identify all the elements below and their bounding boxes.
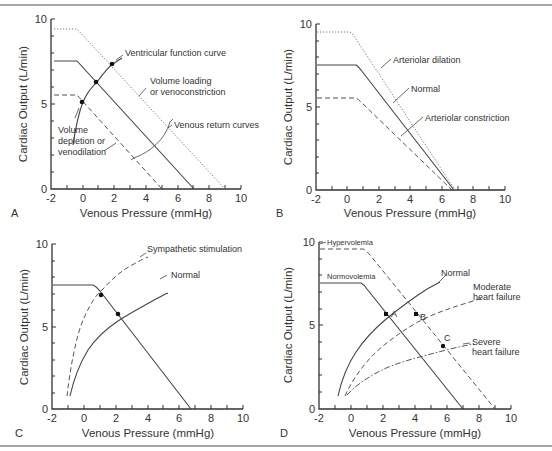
xtick: 4 xyxy=(412,412,418,424)
panel-b-axes xyxy=(316,24,505,190)
equilibrium-point-c xyxy=(441,344,445,348)
xtick: 10 xyxy=(235,192,247,204)
equilibrium-point-a xyxy=(384,312,388,316)
panel-d: 10 5 0 -2 0 2 4 6 8 10 Venous Pressure (… xyxy=(280,236,521,439)
sympathetic-stimulation-curve xyxy=(67,257,148,396)
x-axis-label: Venous Pressure (mmHg) xyxy=(80,207,212,219)
xtick: 0 xyxy=(80,192,86,204)
equilibrium-point-b xyxy=(414,312,418,316)
equilibrium-point xyxy=(116,312,121,317)
annotation: Arteriolar constriction xyxy=(425,113,510,123)
arteriolar-constriction-curve xyxy=(317,98,452,190)
xtick: 4 xyxy=(407,193,413,205)
panel-letter: A xyxy=(11,207,19,219)
panel-letter: C xyxy=(15,427,23,439)
panel-d-axes xyxy=(319,242,511,409)
panel-b: 10 5 0 -2 0 2 4 6 8 10 Venous Pressure (… xyxy=(276,18,511,219)
annotation: Ventricular function curve xyxy=(125,48,226,58)
xtick: -2 xyxy=(314,412,324,424)
severe-heart-failure-curve xyxy=(347,344,474,395)
x-axis-label: Venous Pressure (mmHg) xyxy=(82,427,214,439)
annotation: Normal xyxy=(171,270,200,280)
annotation: Sympathetic stimulation xyxy=(147,244,242,254)
xtick: 8 xyxy=(208,412,214,424)
annotation: Moderate xyxy=(473,282,511,292)
panel-a-axes xyxy=(51,19,241,189)
annotation: or venoconstriction xyxy=(150,87,226,97)
equilibrium-point xyxy=(99,293,104,298)
xtick: 2 xyxy=(376,193,382,205)
ytick-10: 10 xyxy=(303,236,315,248)
y-axis-label: Cardiac Output (L/min) xyxy=(282,49,294,165)
xtick: 8 xyxy=(206,192,212,204)
annotation: Normovolemia xyxy=(327,272,376,281)
xtick: 6 xyxy=(444,412,450,424)
panel-c: 10 5 0 -2 0 2 4 6 8 10 Venous Pressure (… xyxy=(15,238,249,439)
annotation: venodilation xyxy=(58,147,106,157)
equilibrium-point xyxy=(110,62,115,67)
normal-ventricular-curve xyxy=(70,293,168,396)
panel-c-axes xyxy=(52,244,243,409)
annotation: heart failure xyxy=(472,347,520,357)
xtick: 8 xyxy=(476,412,482,424)
panel-letter: B xyxy=(276,207,283,219)
xtick: 6 xyxy=(175,192,181,204)
xtick: 0 xyxy=(81,412,87,424)
xtick: 4 xyxy=(145,412,151,424)
ytick-5: 5 xyxy=(41,98,47,110)
y-axis-label: Cardiac Output (L/min) xyxy=(17,46,29,162)
x-axis-label: Venous Pressure (mmHg) xyxy=(349,427,481,439)
xtick: 8 xyxy=(470,193,476,205)
annotation: Volume xyxy=(58,125,88,135)
normal-ventricular-curve xyxy=(338,282,440,396)
equilibrium-point xyxy=(94,80,99,85)
xtick: -2 xyxy=(311,193,321,205)
xtick: 6 xyxy=(176,412,182,424)
xtick: 6 xyxy=(439,193,445,205)
point-label-a: A xyxy=(391,309,397,319)
ytick-10: 10 xyxy=(35,13,47,25)
xtick: 2 xyxy=(380,412,386,424)
annotation: Hypervolemia xyxy=(327,238,374,247)
annotation: Volume loading xyxy=(150,76,212,86)
point-label-b: B xyxy=(420,312,426,322)
xtick: -2 xyxy=(46,192,56,204)
point-label-c: C xyxy=(444,333,451,343)
y-axis-label: Cardiac Output (L/min) xyxy=(282,267,294,383)
annotation: Arteriolar dilation xyxy=(393,55,461,65)
annotation: depletion or xyxy=(58,136,105,146)
ytick-10: 10 xyxy=(36,238,48,250)
annotation: Severe xyxy=(472,337,501,347)
xtick: 4 xyxy=(143,192,149,204)
xtick: 10 xyxy=(499,193,511,205)
panel-letter: D xyxy=(280,427,288,439)
ytick-5: 5 xyxy=(309,319,315,331)
ytick-10: 10 xyxy=(300,18,312,30)
xtick: 0 xyxy=(344,193,350,205)
annotation: heart failure xyxy=(473,292,521,302)
venous-return-curve xyxy=(53,285,191,409)
x-axis-label: Venous Pressure (mmHg) xyxy=(344,207,476,219)
xtick: 0 xyxy=(348,412,354,424)
y-axis-label: Cardiac Output (L/min) xyxy=(18,269,30,385)
xtick: 2 xyxy=(113,412,119,424)
ytick-5: 5 xyxy=(306,101,312,113)
equilibrium-point xyxy=(80,100,85,105)
annotation: Normal xyxy=(411,84,440,94)
xtick: 2 xyxy=(111,192,117,204)
figure: 10 5 0 -2 0 2 4 6 8 10 Venous Pressure (… xyxy=(0,0,552,451)
xtick: 10 xyxy=(505,412,517,424)
annotation: Venous return curves xyxy=(174,120,260,130)
panel-a: 10 5 0 -2 0 2 4 6 8 10 Venous Pressure (… xyxy=(11,13,260,219)
annotation: Normal xyxy=(441,268,470,278)
ytick-5: 5 xyxy=(42,321,48,333)
xtick: 10 xyxy=(237,412,249,424)
xtick: -2 xyxy=(47,412,57,424)
